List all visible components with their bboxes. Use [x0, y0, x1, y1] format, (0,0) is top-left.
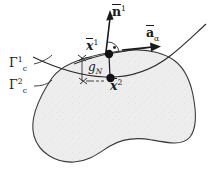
label-surface-gamma-2: Γ2c [9, 79, 27, 92]
label-point-x2: x2 [110, 80, 122, 93]
contact-point-x1 [105, 50, 113, 58]
label-gap: gN [88, 61, 102, 73]
leader-gamma-1 [34, 55, 52, 64]
label-point-x1: x1 [86, 40, 98, 53]
label-tangent-vector: aα [146, 27, 159, 40]
contact-mechanics-diagram: n1 aα x1 x2 gN Γ1c Γ2c [0, 0, 213, 172]
diagram-canvas [0, 0, 213, 172]
label-normal-vector: n1 [112, 6, 126, 19]
label-surface-gamma-1: Γ1c [9, 57, 27, 70]
